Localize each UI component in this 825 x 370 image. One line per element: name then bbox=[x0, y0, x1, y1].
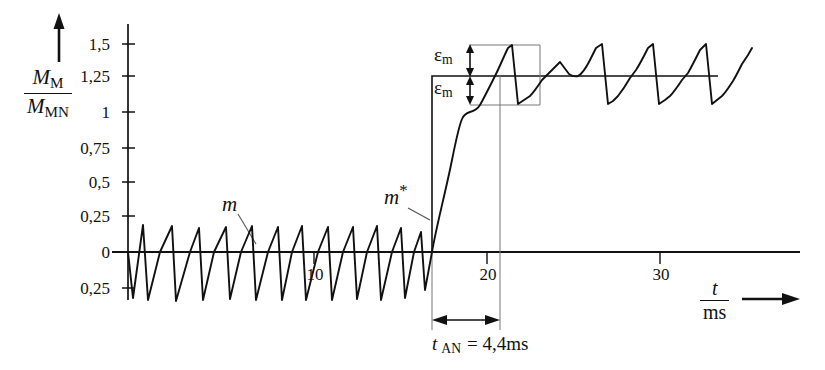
response-time-dimension-arrow bbox=[432, 315, 500, 325]
y-tick-label-1: 1 bbox=[58, 104, 110, 121]
epsilon-upper-label: εm bbox=[434, 45, 453, 67]
xaxis-arrow-icon bbox=[742, 293, 800, 305]
epsilon-upper-dimension-arrow bbox=[466, 44, 474, 77]
response-time-subscript: AN bbox=[437, 341, 461, 356]
mstar-label-leader-line bbox=[408, 208, 430, 220]
y-tick-label-neg0_25: 0,25 bbox=[54, 280, 110, 297]
y-tick-label-0_75: 0,75 bbox=[54, 140, 110, 157]
curve-label-m-star-superscript: * bbox=[399, 181, 407, 200]
x-tick-label-20: 20 bbox=[473, 266, 503, 283]
x-axis bbox=[112, 252, 800, 264]
curve-label-m-star-symbol: m bbox=[384, 185, 399, 209]
y-axis-label-denominator: M bbox=[27, 94, 45, 118]
y-tick-label-1_25: 1,25 bbox=[54, 68, 110, 85]
x-axis-label-denominator: ms bbox=[703, 301, 726, 323]
epsilon-lower-subscript: m bbox=[442, 85, 453, 100]
epsilon-upper-subscript: m bbox=[442, 52, 453, 67]
x-axis-label-numerator: t bbox=[712, 277, 718, 299]
setpoint-step-curve bbox=[128, 76, 718, 252]
y-tick-label-1_5: 1,5 bbox=[58, 36, 110, 53]
epsilon-lower-dimension-arrow bbox=[466, 76, 474, 105]
epsilon-lower-symbol: ε bbox=[434, 77, 442, 98]
y-axis-label-numerator: M bbox=[32, 65, 50, 89]
y-tick-label-0_25: 0,25 bbox=[54, 208, 110, 225]
epsilon-lower-label: εm bbox=[434, 78, 453, 100]
x-axis-label: t ms bbox=[700, 278, 729, 323]
response-time-value: = 4,4ms bbox=[461, 333, 528, 354]
chart-figure: MM MMN 1,5 1,25 1 0,75 0,5 0,25 0 0,25 1… bbox=[0, 0, 825, 370]
epsilon-upper-symbol: ε bbox=[434, 44, 442, 65]
x-tick-label-10: 10 bbox=[300, 266, 330, 283]
curve-label-m-star: m* bbox=[384, 183, 408, 208]
curve-label-m: m bbox=[222, 194, 237, 215]
response-time-label: tAN= 4,4ms bbox=[432, 334, 528, 356]
x-tick-label-30: 30 bbox=[646, 266, 676, 283]
y-tick-label-0_5: 0,5 bbox=[58, 174, 110, 191]
y-tick-label-0: 0 bbox=[58, 244, 110, 261]
